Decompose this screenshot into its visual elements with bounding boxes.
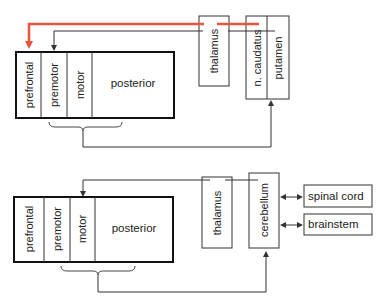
top-motor-label: motor: [74, 71, 86, 99]
cortico-cerebellar-pathway: [61, 254, 266, 292]
bottom-thalamus-label: thalamus: [211, 190, 223, 235]
bottom-posterior-label: posterior: [112, 222, 157, 234]
cerebellum-box: cerebellum: [249, 173, 279, 248]
brainstem-label: brainstem: [308, 218, 359, 230]
bottom-premotor-label: premotor: [51, 207, 63, 251]
bottom-thalamus-box: thalamus: [202, 177, 232, 248]
bottom-prefrontal-label: prefrontal: [23, 206, 35, 252]
bottom-cortex-box: prefrontal premotor motor posterior: [14, 197, 173, 262]
spinal-cord-label: spinal cord: [308, 190, 364, 202]
bottom-diagram: thalamus cerebellum spinal cord brainste…: [14, 173, 372, 292]
thalamo-premotor-pathway: [54, 31, 275, 48]
cerebellum-label: cerebellum: [258, 183, 270, 237]
brainstem-box: brainstem: [304, 214, 372, 235]
red-prefrontal-pathway: [29, 24, 259, 45]
spinal-cord-box: spinal cord: [304, 185, 372, 207]
n-caudatus-label: n. caudatus: [251, 29, 263, 86]
top-posterior-label: posterior: [111, 77, 156, 89]
top-thalamus-box: thalamus: [199, 16, 229, 86]
top-diagram: thalamus n. caudatus putamen prefrontal …: [16, 16, 289, 147]
top-prefrontal-label: prefrontal: [23, 62, 35, 108]
bottom-motor-label: motor: [76, 215, 88, 243]
top-premotor-label: premotor: [48, 63, 60, 107]
top-corticostriatal-pathway: [49, 103, 271, 147]
top-cortex-box: prefrontal premotor motor posterior: [16, 52, 174, 118]
putamen-label: putamen: [272, 37, 284, 80]
top-thalamus-label: thalamus: [208, 28, 220, 73]
top-basal-ganglia-box: n. caudatus putamen: [246, 16, 289, 99]
motor-loops-diagram: thalamus n. caudatus putamen prefrontal …: [0, 0, 389, 306]
